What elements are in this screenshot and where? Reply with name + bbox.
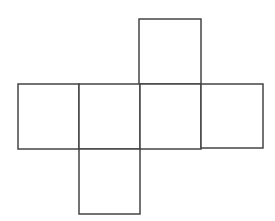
face-right [201,84,263,148]
face-center-left [79,84,140,149]
cube-net-diagram [0,0,275,221]
face-left [18,84,79,149]
face-bottom [79,149,140,214]
face-center-right [140,84,201,149]
face-top [139,19,201,84]
